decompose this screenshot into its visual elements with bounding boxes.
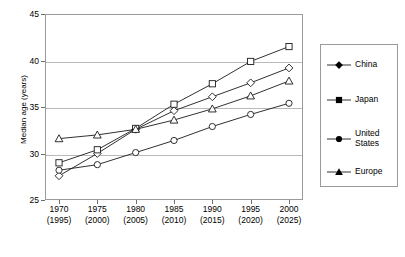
legend-label: Europe <box>355 167 382 177</box>
x-tick-year-primary: 1975 <box>88 204 107 214</box>
data-point <box>209 123 215 129</box>
legend-marker-square-icon <box>326 94 352 106</box>
data-point <box>286 43 292 49</box>
legend-marker-circle-icon <box>326 133 352 145</box>
legend-item-japan[interactable]: Japan <box>326 94 398 106</box>
median-age-line-chart: Median age (years) 25303540451970(1995)1… <box>0 0 405 257</box>
x-tick-year-primary: 1980 <box>126 204 145 214</box>
data-point <box>209 81 215 87</box>
series-japan <box>56 43 292 165</box>
legend-label: United States <box>355 129 398 148</box>
data-series-layer <box>45 14 303 200</box>
x-tick-year-primary: 1995 <box>241 204 260 214</box>
legend-marker-diamond-icon <box>326 59 352 71</box>
data-point <box>285 64 293 72</box>
x-tick-label-2000: 2000(2025) <box>266 204 312 226</box>
data-point <box>286 100 292 106</box>
data-point <box>133 149 139 155</box>
data-point <box>56 160 62 166</box>
data-point <box>208 93 216 101</box>
legend-item-united-states[interactable]: United States <box>326 129 398 148</box>
data-point <box>248 111 254 117</box>
legend-label: Japan <box>355 95 378 105</box>
data-point <box>285 77 293 84</box>
x-tick-year-primary: 1990 <box>203 204 222 214</box>
legend-item-europe[interactable]: Europe <box>326 166 398 178</box>
data-point <box>171 137 177 143</box>
data-point <box>208 105 216 112</box>
data-point <box>94 162 100 168</box>
data-point <box>248 58 254 64</box>
y-tick-label-30: 30 <box>5 150 39 159</box>
x-tick-year-primary: 1970 <box>50 204 69 214</box>
y-tick-label-25: 25 <box>5 196 39 205</box>
y-tick-label-40: 40 <box>5 57 39 66</box>
x-tick-year-primary: 1985 <box>165 204 184 214</box>
data-point <box>94 147 100 153</box>
x-tick-year-secondary: (2025) <box>266 215 312 226</box>
data-point <box>56 167 62 173</box>
legend-item-china[interactable]: China <box>326 59 398 71</box>
legend-marker-triangle-icon <box>326 166 352 178</box>
legend-label: China <box>355 60 377 70</box>
y-tick-label-45: 45 <box>5 10 39 19</box>
y-tick-label-35: 35 <box>5 103 39 112</box>
data-point <box>170 107 178 115</box>
data-point <box>171 101 177 107</box>
data-point <box>247 79 255 87</box>
x-tick-year-primary: 2000 <box>280 204 299 214</box>
y-tick-mark-25 <box>41 200 45 201</box>
legend: ChinaJapanUnited StatesEurope <box>320 44 398 187</box>
data-point <box>247 92 255 99</box>
